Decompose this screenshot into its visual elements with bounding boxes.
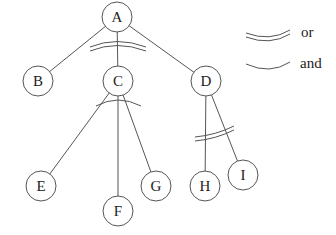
node-h: H <box>190 171 220 201</box>
node-c: C <box>103 66 133 96</box>
edge-d-h <box>205 81 206 186</box>
node-label-e: E <box>36 178 45 194</box>
node-b: B <box>23 66 53 96</box>
legend: or and <box>246 24 322 71</box>
node-label-h: H <box>200 178 211 194</box>
node-g: G <box>141 171 171 201</box>
or-arc-d <box>195 126 234 141</box>
node-label-a: A <box>112 9 123 25</box>
edge-a-d <box>117 17 206 81</box>
node-label-g: G <box>151 178 162 194</box>
node-i: I <box>228 160 258 190</box>
node-d: D <box>191 66 221 96</box>
edge-c-g <box>118 81 156 186</box>
node-label-c: C <box>113 73 123 89</box>
node-label-f: F <box>114 203 122 219</box>
node-f: F <box>103 196 133 226</box>
node-label-d: D <box>201 73 212 89</box>
node-label-i: I <box>241 167 246 183</box>
legend-and-label: and <box>300 55 322 71</box>
legend-and-symbol-icon <box>246 62 290 69</box>
edge-c-e <box>41 81 118 186</box>
and-or-tree-diagram: A B C D E F G H I or <box>0 0 336 235</box>
legend-or-symbol-icon <box>246 30 290 41</box>
legend-or-label: or <box>301 24 314 40</box>
node-label-b: B <box>33 73 43 89</box>
node-a: A <box>102 2 132 32</box>
node-e: E <box>26 171 56 201</box>
